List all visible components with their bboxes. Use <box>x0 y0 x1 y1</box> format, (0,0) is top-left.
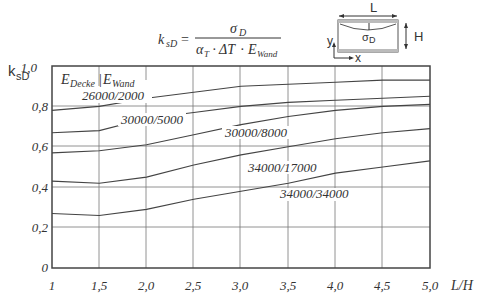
formula-sigma-sub: D <box>238 27 247 38</box>
formula-k-sub: sD <box>166 38 178 49</box>
tick-y-0.8: 0,8 <box>32 99 49 114</box>
tick-x-1.5: 1,5 <box>91 278 108 293</box>
tick-x-4.5: 4,5 <box>374 278 391 293</box>
tick-x-5.0: 5,0 <box>422 278 439 293</box>
tick-y-0.6: 0,6 <box>32 139 49 154</box>
tick-x-3.0: 3,0 <box>231 278 249 293</box>
tick-y-0: 0 <box>42 260 49 275</box>
tick-x-4.0: 4,0 <box>327 278 344 293</box>
x-axis-label: L/H <box>450 278 474 293</box>
formula: k sD = σ D α T · ΔT · E Wand <box>158 21 281 59</box>
formula-e-sub: Wand <box>257 49 278 59</box>
arrow-down-icon <box>404 44 408 49</box>
tick-x-2.0: 2,0 <box>138 278 155 293</box>
arrow-left-icon <box>339 14 344 18</box>
label-34000-34000: 34000/34000 <box>279 186 349 201</box>
inset-label-L: L <box>370 0 377 15</box>
formula-equals: = <box>181 32 189 47</box>
chart-svg: k sD = σ D α T · ΔT · E Wand L σ D H y x <box>0 0 477 296</box>
tick-x-3.5: 3,5 <box>279 278 297 293</box>
label-30000-8000: 30000/8000 <box>224 125 288 140</box>
label-26000-2000: 26000/2000 <box>82 88 145 103</box>
inset-diagram: L σ D H y x <box>327 0 423 65</box>
tick-y-0.4: 0,4 <box>32 180 49 195</box>
arrow-up-icon <box>404 23 408 28</box>
inset-sigma-sub: D <box>369 35 376 45</box>
formula-e: E <box>247 42 257 57</box>
label-34000-17000: 34000/17000 <box>247 160 317 175</box>
series-labels: E Decke | E Wand 26000/2000 30000/5000 3… <box>60 72 356 201</box>
formula-alpha: α <box>196 42 204 57</box>
y-axis-label-sub: sD <box>16 70 30 82</box>
tick-x-1: 1 <box>49 278 56 293</box>
formula-dot-1: · <box>212 42 217 57</box>
y-axis-label-k: k <box>8 62 16 79</box>
legend-sep: | <box>99 72 102 87</box>
legend-e2: E <box>102 72 112 87</box>
formula-alpha-sub: T <box>204 49 210 59</box>
curve-34000-34000 <box>52 161 430 216</box>
legend-e1: E <box>60 72 70 87</box>
tick-x-2.5: 2,5 <box>185 278 202 293</box>
formula-k: k <box>158 32 165 47</box>
inset-label-x: x <box>355 51 361 65</box>
formula-delta-t: ΔT <box>218 42 236 57</box>
label-30000-5000: 30000/5000 <box>120 112 184 127</box>
tick-y-0.2: 0,2 <box>32 220 49 235</box>
inset-label-y: y <box>327 34 333 48</box>
inset-deflection-curve <box>340 24 396 30</box>
x-arrow-icon <box>349 56 354 60</box>
arrow-right-icon <box>392 14 397 18</box>
formula-sigma: σ <box>230 21 238 36</box>
formula-dot-2: · <box>240 42 245 57</box>
inset-sigma: σ <box>362 31 369 43</box>
inset-label-H: H <box>414 29 423 44</box>
